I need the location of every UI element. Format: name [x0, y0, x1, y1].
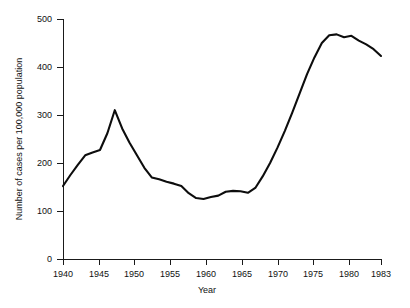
x-tick-label-1960: 1960	[196, 269, 216, 279]
y-axis-title: Number of cases per 100,000 population	[14, 58, 24, 221]
y-tick-label-300: 300	[37, 110, 52, 120]
y-tick-label-200: 200	[37, 158, 52, 168]
y-tick-label-400: 400	[37, 62, 52, 72]
x-tick-label-1975: 1975	[303, 269, 323, 279]
x-tick-label-1970: 1970	[268, 269, 288, 279]
x-tick-label-1955: 1955	[160, 269, 180, 279]
x-ticks-group: 1940 1945 1950 1955 1960 1965 1970 1975 …	[53, 259, 391, 279]
chart-container: 500 400 300 200 100 0 1940 1945 1950 195…	[0, 0, 410, 308]
x-tick-label-1945: 1945	[89, 269, 109, 279]
y-tick-label-500: 500	[37, 14, 52, 24]
x-tick-label-1950: 1950	[124, 269, 144, 279]
x-tick-label-1980: 1980	[339, 269, 359, 279]
line-chart-plot: 500 400 300 200 100 0 1940 1945 1950 195…	[0, 0, 410, 308]
x-tick-label-1965: 1965	[232, 269, 252, 279]
y-tick-label-100: 100	[37, 206, 52, 216]
x-axis-title: Year	[198, 285, 216, 295]
axes-group	[63, 19, 381, 259]
y-ticks-group: 500 400 300 200 100 0	[37, 14, 63, 264]
x-tick-label-1940: 1940	[53, 269, 73, 279]
data-series-line	[63, 34, 381, 199]
y-tick-label-0: 0	[47, 254, 52, 264]
x-tick-label-1983: 1983	[371, 269, 391, 279]
